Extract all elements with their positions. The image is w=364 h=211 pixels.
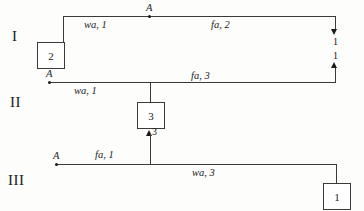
row-1-arrow-down-label: 1 [333, 36, 338, 47]
row-2-segment-label-1: wa, 1 [74, 85, 97, 96]
row-2-node-dot-a [48, 81, 51, 84]
row-1-arrow-up-label: 1 [333, 50, 338, 61]
row-1-node-dot-a [148, 15, 151, 18]
row-label-ii: II [10, 94, 21, 111]
row-1-segment-label-1: wa, 1 [84, 19, 107, 30]
row-1-right-drop [335, 16, 336, 30]
row-3-segment-label-1: fa, 1 [95, 149, 114, 160]
row-label-iii: III [8, 172, 25, 189]
diagram-canvas: I A wa, 1 fa, 2 2 1 1 II A wa, 1 fa, 3 3 [0, 0, 364, 211]
row-2-arrow-up-label: 3 [152, 126, 157, 137]
row-2-segment-label-2: fa, 3 [191, 70, 210, 81]
row-2-node-label-a: A [46, 68, 52, 79]
row-1-arrow-up-icon [331, 62, 337, 68]
row-3-box: 1 [323, 183, 351, 210]
row-3-box-stem [336, 164, 337, 183]
row-1-segment-label-2: fa, 2 [211, 19, 230, 30]
row-3-segment-label-2: wa, 3 [192, 167, 215, 178]
row-2-box: 3 [137, 102, 165, 129]
row-1-top-rail [63, 16, 335, 17]
row-3-riser [150, 134, 151, 164]
row-1-box: 2 [37, 42, 65, 69]
row-1-node-label-a: A [146, 2, 152, 13]
row-3-node-dot-a [55, 163, 58, 166]
row-3-rail [56, 164, 336, 165]
row-2-box-stem [150, 82, 151, 102]
row-2-rail [49, 82, 336, 83]
row-1-right-rise [335, 68, 336, 82]
row-label-i: I [12, 28, 18, 45]
row-1-box-stem [63, 16, 64, 42]
row-1-arrow-down-icon [331, 29, 337, 35]
row-3-node-label-a: A [53, 150, 59, 161]
